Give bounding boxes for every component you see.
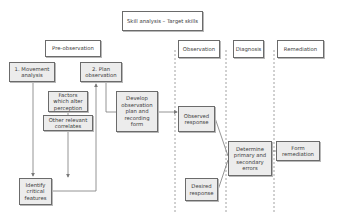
phase-header-diagnosis: Diagnosis	[233, 40, 264, 58]
node-other-relevant-correlates: Other relevant correlates	[43, 115, 93, 131]
node-desired-response: Desired response	[185, 178, 218, 201]
diagram-title: Skill analysis – Target skills	[122, 11, 203, 31]
node-form-remediation: Form remediation	[276, 141, 320, 161]
phase-header-remediation: Remediation	[277, 40, 324, 58]
edge-plan-to-develop	[106, 82, 116, 112]
node-observed-response: Observed response	[178, 106, 215, 132]
node-movement-analysis: 1. Movement analysis	[9, 62, 55, 82]
node-identify-critical-features: Identify critical features	[19, 178, 52, 205]
node-develop-observation-plan: Develop observation plan and recording f…	[116, 91, 158, 132]
phase-header-observation: Observation	[178, 40, 220, 58]
node-determine-errors: Determine primary and secondary errors	[228, 141, 272, 176]
node-plan-observation: 2. Plan observation	[80, 62, 122, 82]
edge-desired-to-determine	[218, 160, 228, 190]
phase-header-pre-observation: Pre-observation	[45, 40, 101, 57]
node-factors-alter-perception: Factors which alter perception	[48, 91, 88, 112]
